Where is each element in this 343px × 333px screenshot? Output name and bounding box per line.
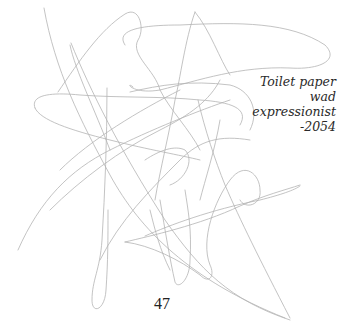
scribble-stroke bbox=[100, 138, 250, 260]
scribble-stroke bbox=[145, 186, 300, 236]
caption-line: expressionist bbox=[216, 104, 336, 119]
scribble-stroke bbox=[155, 12, 195, 200]
scribble-stroke bbox=[60, 90, 180, 170]
scribble-stroke bbox=[160, 190, 191, 285]
scribble-drawing bbox=[0, 0, 343, 333]
artwork-caption: Toilet paper wad expressionist -2054 bbox=[216, 74, 336, 134]
caption-line: Toilet paper bbox=[216, 74, 336, 89]
artwork-page: Toilet paper wad expressionist -2054 47 bbox=[0, 0, 343, 333]
scribble-stroke bbox=[92, 88, 108, 309]
scribble-stroke bbox=[125, 170, 260, 279]
scribble-stroke bbox=[145, 148, 189, 185]
scribble-stroke bbox=[18, 100, 230, 250]
scribble-stroke bbox=[34, 94, 242, 125]
scribble-stroke bbox=[35, 108, 200, 160]
caption-line: wad bbox=[216, 89, 336, 104]
page-number: 47 bbox=[154, 295, 170, 313]
scribble-stroke bbox=[195, 12, 230, 75]
scribble-stroke bbox=[44, 8, 285, 318]
caption-line: -2054 bbox=[216, 119, 336, 134]
